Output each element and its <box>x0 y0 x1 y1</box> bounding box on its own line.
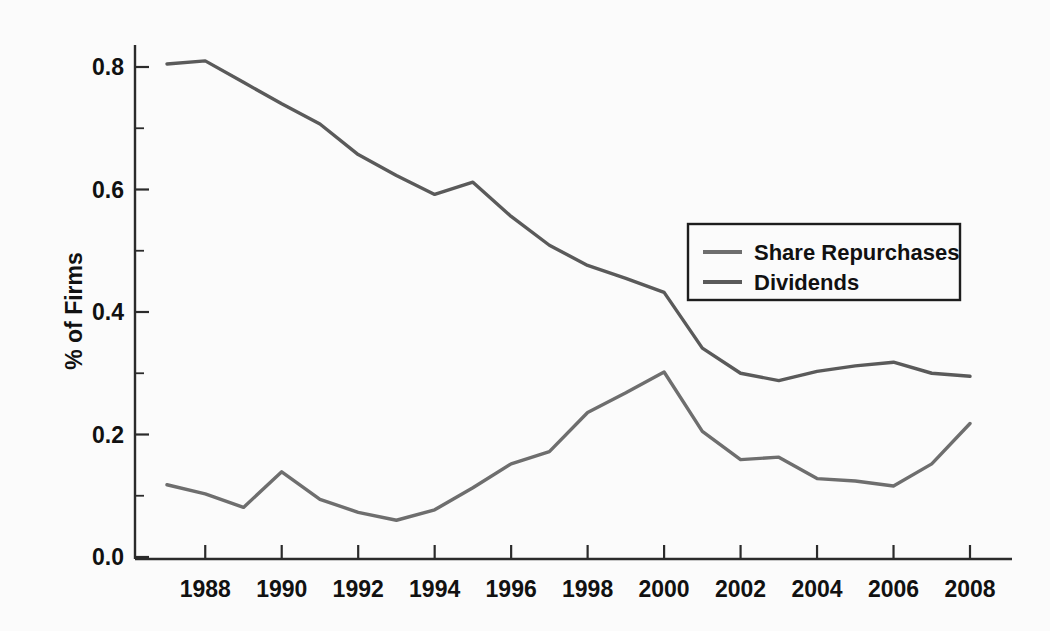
line-chart: 0.00.20.40.60.8 % of Firms 1988199019921… <box>0 0 1050 631</box>
x-tick-label-2000: 2000 <box>639 576 690 602</box>
legend-label-dividends: Dividends <box>754 270 859 295</box>
x-tick-label-2008: 2008 <box>944 576 995 602</box>
chart-legend: Share RepurchasesDividends <box>688 224 960 300</box>
y-tick-label-0.0: 0.0 <box>92 544 124 570</box>
x-tick-label-1998: 1998 <box>562 576 613 602</box>
x-axis-tick-labels: 1988199019921994199619982000200220042006… <box>180 576 996 602</box>
y-tick-label-0.8: 0.8 <box>92 54 124 80</box>
x-tick-label-2002: 2002 <box>715 576 766 602</box>
x-tick-label-2006: 2006 <box>868 576 919 602</box>
x-tick-label-1996: 1996 <box>486 576 537 602</box>
y-tick-label-0.6: 0.6 <box>92 177 124 203</box>
x-tick-label-1988: 1988 <box>180 576 231 602</box>
x-tick-label-1990: 1990 <box>256 576 307 602</box>
chart-page: 0.00.20.40.60.8 % of Firms 1988199019921… <box>0 0 1050 631</box>
y-tick-label-0.4: 0.4 <box>92 299 124 325</box>
chart-background <box>0 0 1050 631</box>
y-tick-label-0.2: 0.2 <box>92 422 124 448</box>
legend-label-share-repurchases: Share Repurchases <box>754 240 959 265</box>
x-tick-label-1992: 1992 <box>333 576 384 602</box>
x-tick-label-1994: 1994 <box>409 576 460 602</box>
x-tick-label-2004: 2004 <box>791 576 842 602</box>
y-axis-title: % of Firms <box>61 252 87 370</box>
